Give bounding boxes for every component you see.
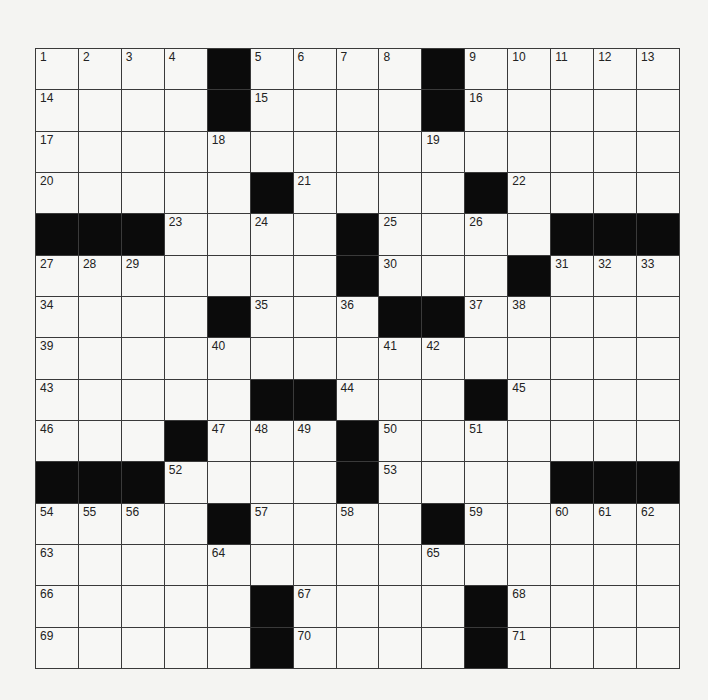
- crossword-cell[interactable]: [422, 586, 464, 626]
- crossword-cell[interactable]: [165, 586, 207, 626]
- crossword-cell[interactable]: 39: [36, 338, 78, 378]
- crossword-cell[interactable]: [551, 297, 593, 337]
- crossword-cell[interactable]: [165, 132, 207, 172]
- crossword-cell[interactable]: 40: [208, 338, 250, 378]
- crossword-cell[interactable]: [508, 214, 550, 254]
- crossword-cell[interactable]: [637, 421, 679, 461]
- crossword-cell[interactable]: [208, 586, 250, 626]
- crossword-cell[interactable]: [551, 90, 593, 130]
- crossword-cell[interactable]: 26: [465, 214, 507, 254]
- crossword-cell[interactable]: [637, 132, 679, 172]
- crossword-cell[interactable]: [594, 90, 636, 130]
- crossword-cell[interactable]: [465, 132, 507, 172]
- crossword-cell[interactable]: 57: [251, 504, 293, 544]
- crossword-cell[interactable]: [422, 214, 464, 254]
- crossword-cell[interactable]: 1: [36, 49, 78, 89]
- crossword-cell[interactable]: 5: [251, 49, 293, 89]
- crossword-cell[interactable]: [208, 173, 250, 213]
- crossword-cell[interactable]: [122, 338, 164, 378]
- crossword-cell[interactable]: 8: [379, 49, 421, 89]
- crossword-cell[interactable]: [122, 297, 164, 337]
- crossword-cell[interactable]: [422, 173, 464, 213]
- crossword-cell[interactable]: 64: [208, 545, 250, 585]
- crossword-cell[interactable]: [251, 545, 293, 585]
- crossword-cell[interactable]: [637, 90, 679, 130]
- crossword-cell[interactable]: 36: [337, 297, 379, 337]
- crossword-cell[interactable]: [165, 338, 207, 378]
- crossword-cell[interactable]: [379, 586, 421, 626]
- crossword-cell[interactable]: 3: [122, 49, 164, 89]
- crossword-cell[interactable]: 66: [36, 586, 78, 626]
- crossword-cell[interactable]: [79, 380, 121, 420]
- crossword-cell[interactable]: [165, 90, 207, 130]
- crossword-cell[interactable]: 42: [422, 338, 464, 378]
- crossword-cell[interactable]: [422, 462, 464, 502]
- crossword-cell[interactable]: [637, 380, 679, 420]
- crossword-cell[interactable]: [551, 628, 593, 668]
- crossword-cell[interactable]: 25: [379, 214, 421, 254]
- crossword-cell[interactable]: [637, 338, 679, 378]
- crossword-cell[interactable]: [465, 545, 507, 585]
- crossword-cell[interactable]: 70: [294, 628, 336, 668]
- crossword-cell[interactable]: [294, 462, 336, 502]
- crossword-cell[interactable]: [79, 90, 121, 130]
- crossword-cell[interactable]: 43: [36, 380, 78, 420]
- crossword-cell[interactable]: [379, 173, 421, 213]
- crossword-cell[interactable]: [508, 421, 550, 461]
- crossword-cell[interactable]: [294, 504, 336, 544]
- crossword-cell[interactable]: 48: [251, 421, 293, 461]
- crossword-cell[interactable]: 20: [36, 173, 78, 213]
- crossword-cell[interactable]: [594, 338, 636, 378]
- crossword-cell[interactable]: [594, 297, 636, 337]
- crossword-cell[interactable]: [508, 90, 550, 130]
- crossword-cell[interactable]: 41: [379, 338, 421, 378]
- crossword-cell[interactable]: 71: [508, 628, 550, 668]
- crossword-cell[interactable]: [165, 504, 207, 544]
- crossword-cell[interactable]: [79, 586, 121, 626]
- crossword-cell[interactable]: 12: [594, 49, 636, 89]
- crossword-cell[interactable]: [122, 545, 164, 585]
- crossword-cell[interactable]: [337, 628, 379, 668]
- crossword-cell[interactable]: [594, 545, 636, 585]
- crossword-cell[interactable]: [79, 173, 121, 213]
- crossword-cell[interactable]: [122, 132, 164, 172]
- crossword-cell[interactable]: [637, 545, 679, 585]
- crossword-cell[interactable]: 54: [36, 504, 78, 544]
- crossword-cell[interactable]: 62: [637, 504, 679, 544]
- crossword-cell[interactable]: [208, 214, 250, 254]
- crossword-cell[interactable]: 50: [379, 421, 421, 461]
- crossword-cell[interactable]: [508, 545, 550, 585]
- crossword-cell[interactable]: [79, 132, 121, 172]
- crossword-cell[interactable]: [294, 545, 336, 585]
- crossword-cell[interactable]: [637, 173, 679, 213]
- crossword-cell[interactable]: [422, 256, 464, 296]
- crossword-cell[interactable]: 14: [36, 90, 78, 130]
- crossword-cell[interactable]: [79, 545, 121, 585]
- crossword-cell[interactable]: 18: [208, 132, 250, 172]
- crossword-cell[interactable]: [208, 256, 250, 296]
- crossword-cell[interactable]: [465, 256, 507, 296]
- crossword-cell[interactable]: 51: [465, 421, 507, 461]
- crossword-cell[interactable]: [294, 214, 336, 254]
- crossword-cell[interactable]: [379, 132, 421, 172]
- crossword-cell[interactable]: 63: [36, 545, 78, 585]
- crossword-cell[interactable]: 32: [594, 256, 636, 296]
- crossword-cell[interactable]: [551, 586, 593, 626]
- crossword-cell[interactable]: [551, 173, 593, 213]
- crossword-cell[interactable]: 17: [36, 132, 78, 172]
- crossword-cell[interactable]: 65: [422, 545, 464, 585]
- crossword-cell[interactable]: 19: [422, 132, 464, 172]
- crossword-cell[interactable]: [422, 421, 464, 461]
- crossword-cell[interactable]: [637, 628, 679, 668]
- crossword-cell[interactable]: [465, 338, 507, 378]
- crossword-cell[interactable]: 27: [36, 256, 78, 296]
- crossword-cell[interactable]: [294, 90, 336, 130]
- crossword-cell[interactable]: 52: [165, 462, 207, 502]
- crossword-cell[interactable]: 33: [637, 256, 679, 296]
- crossword-cell[interactable]: [337, 545, 379, 585]
- crossword-cell[interactable]: [122, 421, 164, 461]
- crossword-cell[interactable]: 67: [294, 586, 336, 626]
- crossword-cell[interactable]: 30: [379, 256, 421, 296]
- crossword-cell[interactable]: [379, 628, 421, 668]
- crossword-cell[interactable]: 68: [508, 586, 550, 626]
